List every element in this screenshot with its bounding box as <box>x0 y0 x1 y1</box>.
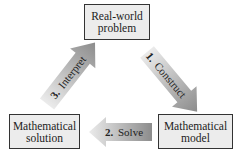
mathematical-model-line2: model <box>164 132 227 144</box>
real-world-problem-line1: Real-world <box>91 10 143 22</box>
mathematical-solution-line2: solution <box>13 132 76 144</box>
construct-label: Construct <box>152 60 189 100</box>
svg-text:3. Interpret: 3. Interpret <box>48 53 89 100</box>
mathematical-model-line1: Mathematical <box>164 120 227 132</box>
mathematical-solution-box: Mathematical solution <box>9 114 80 149</box>
mathematical-solution-line1: Mathematical <box>13 120 76 132</box>
mathematical-model-box: Mathematical model <box>158 114 233 149</box>
solve-label: Solve <box>118 126 143 138</box>
interpret-arrow: 3. Interpret <box>34 33 107 114</box>
solve-num: 2. <box>105 126 114 138</box>
real-world-problem-box: Real-world problem <box>84 4 150 40</box>
svg-text:1. Construct: 1. Construct <box>144 50 189 100</box>
svg-text:2. Solve: 2. Solve <box>105 126 143 138</box>
real-world-problem-line2: problem <box>91 22 143 34</box>
construct-arrow: 1. Construct <box>135 42 210 122</box>
